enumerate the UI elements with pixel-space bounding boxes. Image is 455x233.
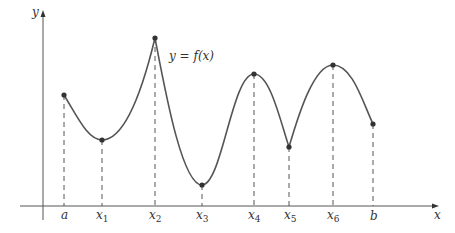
- tick-label-x6: x6: [327, 208, 340, 224]
- tick-label-x5: x5: [284, 208, 297, 224]
- drop-lines: [64, 38, 373, 206]
- tick-label-b: b: [370, 209, 378, 223]
- curve-f: [64, 38, 373, 185]
- curve-label: y = f(x): [168, 49, 214, 63]
- tick-label-a: a: [61, 208, 68, 222]
- y-axis-label: y: [31, 5, 39, 19]
- y-axis-arrow-icon: [41, 10, 46, 17]
- critical-points: [61, 35, 375, 187]
- tick-label-x4: x4: [248, 208, 261, 224]
- x-axis-label: x: [434, 208, 441, 222]
- tick-label-x1: x1: [96, 208, 109, 224]
- tick-label-x3: x3: [196, 208, 209, 224]
- tick-label-x2: x2: [149, 208, 162, 224]
- function-graph: y x y = f(x) a x1 x2 x3 x4 x5 x6 b: [0, 0, 455, 233]
